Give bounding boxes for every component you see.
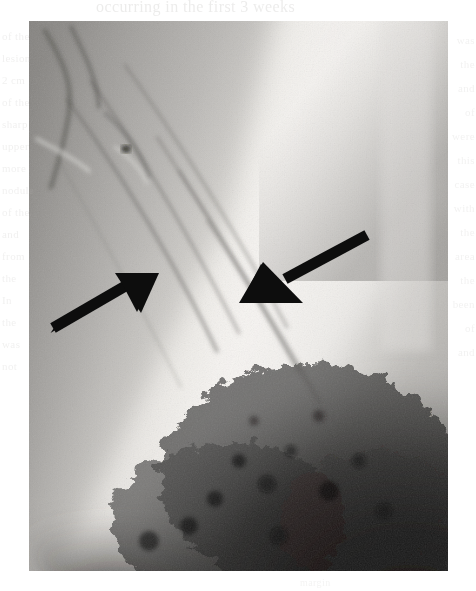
page-margin-right xyxy=(448,0,476,591)
dense-focus xyxy=(121,145,131,153)
radiograph-canvas xyxy=(29,21,448,571)
page-margin-left xyxy=(0,0,29,591)
page-margin-bottom xyxy=(0,571,476,591)
page-margin-top xyxy=(0,0,476,21)
scanned-page: occurring in the first 3 weeks of the le… xyxy=(0,0,476,591)
radiograph-figure xyxy=(29,21,448,571)
right-margin-lucency xyxy=(381,21,431,351)
